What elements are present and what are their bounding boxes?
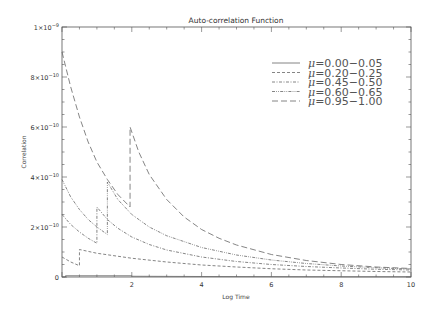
y-tick-label: 2×10−10 — [31, 222, 59, 232]
x-tick-label: 6 — [269, 281, 273, 289]
y-tick-label: 4×10−10 — [31, 172, 59, 182]
legend: μ=0.00−0.05μ=0.20−0.25μ=0.45−0.50μ=0.60−… — [272, 57, 383, 108]
y-tick-label: 8×10−10 — [31, 72, 59, 82]
x-tick-label: 8 — [339, 281, 343, 289]
y-tick-label: 1×10−9 — [34, 22, 59, 32]
series-line-2 — [62, 207, 411, 270]
legend-label: μ=0.95−1.00 — [308, 95, 383, 108]
x-tick-label: 4 — [200, 281, 204, 289]
x-axis-label: Log Time — [222, 293, 250, 301]
y-tick-label: 6×10−10 — [31, 122, 59, 132]
x-tick-label: 10 — [407, 281, 415, 289]
autocorrelation-chart: Auto-correlation Function 246810 02×10−1… — [0, 0, 432, 310]
y-axis-label: Correlation — [20, 135, 27, 168]
chart-title: Auto-correlation Function — [189, 16, 284, 25]
y-tick-label: 0 — [55, 274, 59, 282]
x-tick-label: 2 — [130, 281, 134, 289]
